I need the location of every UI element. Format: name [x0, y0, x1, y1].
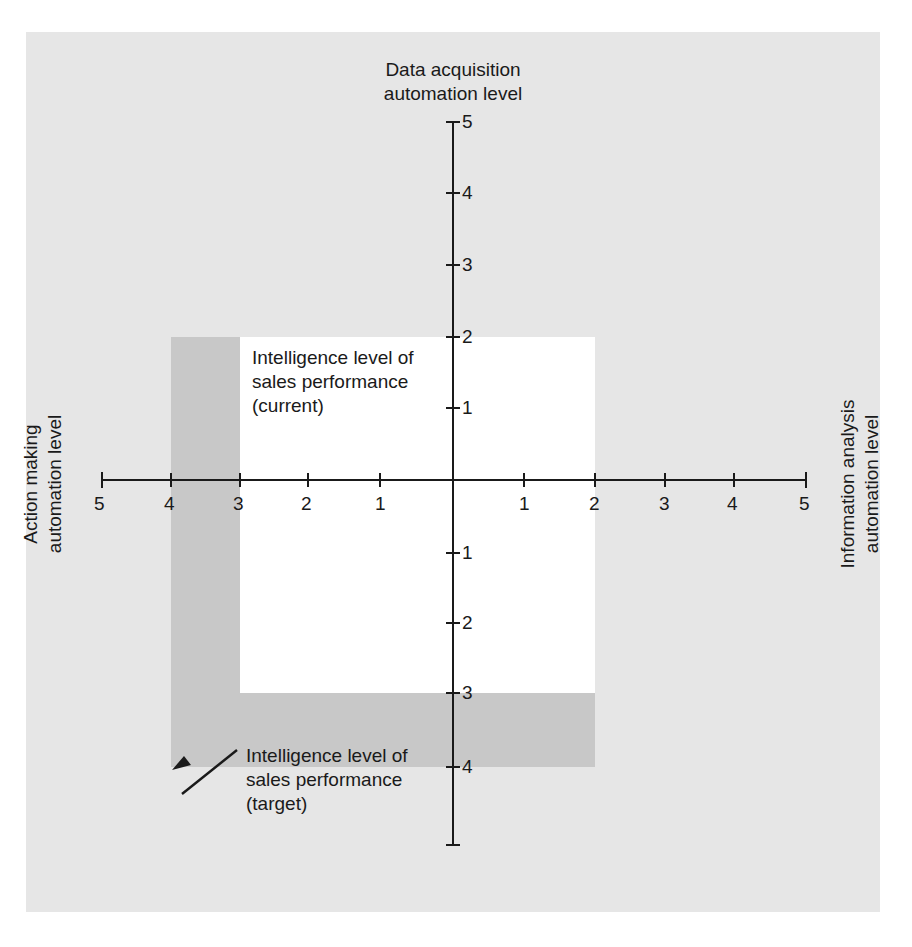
y-tick-up-1: 1 — [462, 396, 473, 420]
target-annotation: Intelligence level of sales performance … — [246, 744, 408, 816]
x-tick-right-1: 1 — [519, 492, 530, 516]
right-axis-title-line1: Information analysis — [836, 364, 860, 604]
current-annotation-line1: Intelligence level of — [252, 346, 414, 370]
top-axis-title-line1: Data acquisition — [353, 58, 553, 82]
x-tick-left-2: 2 — [301, 492, 312, 516]
x-tick-left-1: 1 — [375, 492, 386, 516]
y-tick-up-3: 3 — [462, 253, 473, 277]
left-axis-title-line2: automation level — [43, 384, 67, 584]
right-axis-title-line2: automation level — [860, 364, 884, 604]
target-annotation-line3: (target) — [246, 792, 408, 816]
x-tick-right-4: 4 — [727, 492, 738, 516]
target-annotation-line1: Intelligence level of — [246, 744, 408, 768]
x-tick-left-4: 4 — [164, 492, 175, 516]
right-axis-title: Information analysis automation level — [836, 364, 884, 604]
x-tick-right-3: 3 — [659, 492, 670, 516]
current-annotation-line2: sales performance — [252, 370, 414, 394]
y-tick-up-5: 5 — [462, 110, 473, 134]
y-tick-down-2: 2 — [462, 611, 473, 635]
target-annotation-line2: sales performance — [246, 768, 408, 792]
current-annotation: Intelligence level of sales performance … — [252, 346, 414, 418]
y-tick-up-4: 4 — [462, 181, 473, 205]
x-tick-left-3: 3 — [233, 492, 244, 516]
left-axis-title-line1: Action making — [19, 384, 43, 584]
x-tick-left-5: 5 — [94, 492, 105, 516]
y-tick-down-3: 3 — [462, 681, 473, 705]
automation-level-diagram — [0, 0, 912, 947]
top-axis-title-line2: automation level — [353, 82, 553, 106]
y-tick-down-4: 4 — [462, 755, 473, 779]
current-annotation-line3: (current) — [252, 394, 414, 418]
left-axis-title: Action making automation level — [19, 384, 67, 584]
y-tick-up-2: 2 — [462, 325, 473, 349]
y-tick-down-1: 1 — [462, 541, 473, 565]
x-tick-right-5: 5 — [799, 492, 810, 516]
x-tick-right-2: 2 — [589, 492, 600, 516]
top-axis-title: Data acquisition automation level — [353, 58, 553, 106]
